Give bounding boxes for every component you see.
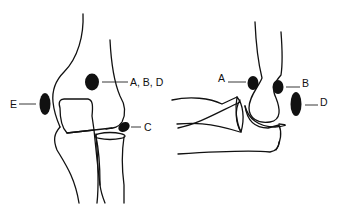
radius-lower-edge	[177, 123, 240, 132]
radius-shaft	[96, 137, 124, 203]
label-b: B	[302, 77, 309, 89]
radial-head	[236, 97, 243, 132]
fat-pad-a	[248, 76, 259, 90]
label-abd: A, B, D	[130, 76, 164, 88]
frontal-view: A, B, D C E	[10, 14, 164, 203]
fat-pad-abd	[85, 74, 99, 91]
label-d: D	[320, 96, 328, 108]
fat-pad-c	[117, 120, 132, 134]
label-c: C	[144, 121, 152, 133]
trochlea-outline	[59, 99, 94, 133]
radius-upper-edge	[172, 97, 237, 104]
humerus-medial-edge	[106, 40, 125, 129]
ulna-upper-edge	[245, 106, 281, 150]
ulna-lower-edge	[178, 142, 279, 154]
lateral-view: A B D	[172, 22, 328, 154]
label-a: A	[218, 72, 225, 84]
humerus-anterior-edge	[249, 22, 282, 122]
fat-pad-e	[40, 93, 51, 115]
fat-pad-b	[273, 80, 284, 94]
fat-pad-d	[291, 92, 302, 116]
radial-head-top	[95, 133, 125, 140]
ulna-left-edge	[55, 127, 79, 203]
label-e: E	[10, 98, 17, 110]
elbow-diagram: A, B, D C E A B D	[0, 0, 341, 213]
humerus-lateral-edge	[53, 14, 83, 127]
